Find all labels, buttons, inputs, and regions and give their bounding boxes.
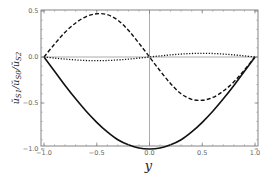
chart: −1.0−0.50.00.51.00.50.0−0.5−1.0 y ŭS1/ŭS…	[0, 0, 265, 180]
x-axis-label: y	[144, 158, 153, 173]
x-tick-label: 1.0	[250, 149, 260, 157]
x-tick-label: −0.5	[89, 149, 105, 157]
reference-lines	[41, 10, 258, 146]
y-tick-label: −1.0	[23, 145, 39, 153]
y-tick-label: 0.5	[28, 7, 38, 15]
x-tick-label: 0.5	[197, 149, 207, 157]
y-tick-label: −0.5	[23, 99, 39, 107]
ticks: −1.0−0.50.00.51.00.50.0−0.5−1.0	[23, 7, 260, 157]
y-tick-label: 0.0	[28, 53, 38, 61]
y-axis-label: ŭS1/ŭS0/ŭS2	[10, 51, 23, 104]
x-tick-label: 0.0	[144, 149, 154, 157]
